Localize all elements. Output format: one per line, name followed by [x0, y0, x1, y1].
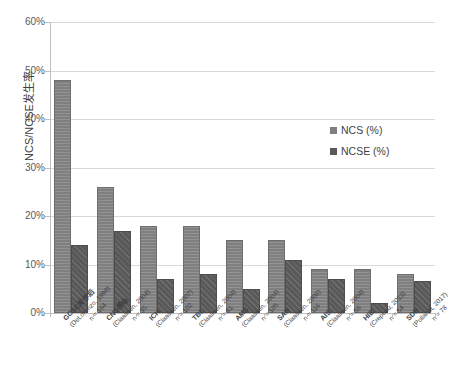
- y-tick-label: 0%: [0, 307, 50, 318]
- y-tick-label: 30%: [0, 162, 50, 173]
- chart-legend: NCS (%)NCSE (%): [330, 124, 389, 157]
- legend-swatch-icon: [330, 148, 337, 155]
- x-axis-labels: GCSE发作后(DeLorenzo, 1998)n = 164CNS感染(Cla…: [50, 316, 435, 383]
- legend-swatch-icon: [330, 127, 337, 134]
- bar-ncs: [54, 80, 71, 313]
- legend-item: NCS (%): [330, 124, 389, 136]
- y-tick-label: 40%: [0, 113, 50, 124]
- legend-item: NCSE (%): [330, 145, 389, 157]
- y-tick-label: 60%: [0, 16, 50, 27]
- bar-group: [50, 22, 93, 313]
- y-tick-label: 50%: [0, 65, 50, 76]
- legend-label: NCS (%): [341, 124, 382, 136]
- y-tick-label: 10%: [0, 259, 50, 270]
- legend-label: NCSE (%): [341, 145, 389, 157]
- y-tick-label: 20%: [0, 210, 50, 221]
